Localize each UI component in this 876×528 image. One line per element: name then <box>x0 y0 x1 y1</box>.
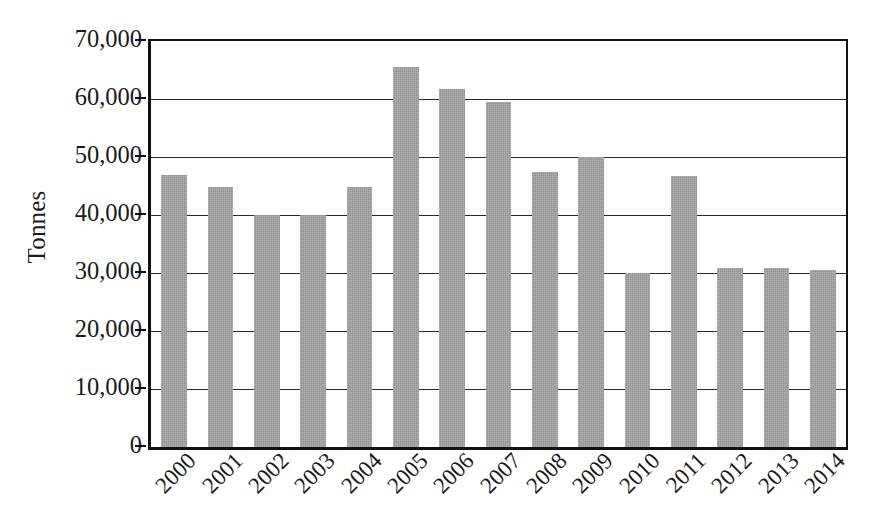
bar <box>532 172 558 447</box>
bar <box>347 187 373 447</box>
x-axis-tick-label: 2010 <box>614 448 665 499</box>
x-axis-tick-label: 2001 <box>197 448 248 499</box>
y-axis-tick-mark <box>135 213 146 215</box>
x-axis-tick-label: 2007 <box>475 448 526 499</box>
bar <box>208 187 234 447</box>
x-axis-tick-label: 2012 <box>707 448 758 499</box>
bar <box>625 273 651 447</box>
bar <box>254 215 280 447</box>
plot-area <box>148 39 848 450</box>
bar <box>393 67 419 447</box>
y-axis-tick-mark <box>135 97 146 99</box>
y-axis-tick-label: 50,000 <box>26 141 142 169</box>
y-axis-tick-labels: 010,00020,00030,00040,00050,00060,00070,… <box>20 0 142 528</box>
y-axis-tick-mark <box>135 39 146 41</box>
bar <box>671 176 697 447</box>
bar-chart: Tonnes 010,00020,00030,00040,00050,00060… <box>0 0 876 528</box>
x-axis-tick-label: 2003 <box>290 448 341 499</box>
x-axis-tick-label: 2014 <box>799 448 850 499</box>
bar <box>439 89 465 447</box>
y-axis-tick-mark <box>135 329 146 331</box>
x-axis-tick-label: 2004 <box>336 448 387 499</box>
y-axis-tick-mark <box>135 445 146 447</box>
x-axis-tick-label: 2006 <box>429 448 480 499</box>
x-axis-tick-label: 2000 <box>151 448 202 499</box>
y-axis-tick-label: 20,000 <box>26 315 142 343</box>
y-axis-tick-mark <box>135 155 146 157</box>
y-axis-tick-label: 30,000 <box>26 257 142 285</box>
x-axis-tick-label: 2005 <box>382 448 433 499</box>
y-axis-tick-label: 40,000 <box>26 199 142 227</box>
gridline <box>151 99 846 100</box>
plot-inner <box>151 41 846 447</box>
x-axis-tick-label: 2008 <box>521 448 572 499</box>
bar <box>810 270 836 447</box>
x-axis-tick-label: 2009 <box>568 448 619 499</box>
bar <box>764 268 790 447</box>
bar <box>161 175 187 447</box>
y-axis-tick-label: 10,000 <box>26 373 142 401</box>
y-axis-tick-label: 60,000 <box>26 83 142 111</box>
bar <box>578 157 604 447</box>
bar <box>486 102 512 447</box>
x-axis-tick-label: 2002 <box>243 448 294 499</box>
y-axis-tick-mark <box>135 271 146 273</box>
y-axis-tick-label: 70,000 <box>26 25 142 53</box>
x-axis-tick-label: 2013 <box>753 448 804 499</box>
y-axis-tick-label: 0 <box>26 431 142 459</box>
x-axis-tick-label: 2011 <box>661 448 711 498</box>
bar <box>300 215 326 447</box>
x-axis-tick-labels: 2000200120022003200420052006200720082009… <box>148 448 843 528</box>
y-axis-tick-mark <box>135 387 146 389</box>
bar <box>717 268 743 447</box>
